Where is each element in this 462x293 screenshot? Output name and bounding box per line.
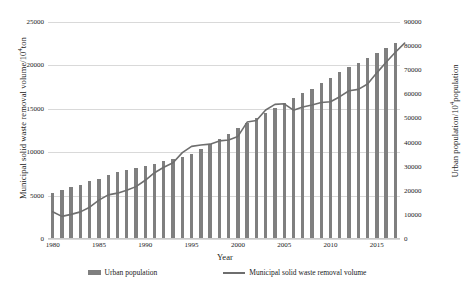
line-path bbox=[53, 43, 405, 216]
plot-area bbox=[48, 22, 400, 239]
y-axis-left-tick-label: 0 bbox=[41, 235, 45, 243]
x-axis-tick-label: 2010 bbox=[324, 241, 338, 249]
y-axis-right-tick-label: 60000 bbox=[404, 90, 422, 98]
y-axis-left-tick-label: 25000 bbox=[27, 18, 45, 26]
y-axis-left-tick-label: 15000 bbox=[27, 105, 45, 113]
y-axis-right-tick-label: 40000 bbox=[404, 139, 422, 147]
legend-line-swatch-icon bbox=[223, 272, 245, 274]
y-axis-right-title: Urban population/104population bbox=[448, 8, 462, 234]
line-series-waste-removal-volume bbox=[48, 22, 400, 239]
x-axis-tick-label: 2005 bbox=[277, 241, 291, 249]
chart-legend: Urban population Municipal solid waste r… bbox=[0, 268, 454, 277]
legend-item-urban-population: Urban population bbox=[88, 268, 158, 277]
y-axis-right-tick-label: 50000 bbox=[404, 114, 422, 122]
x-axis-baseline bbox=[48, 238, 400, 239]
gridline bbox=[48, 239, 400, 240]
legend-label-waste-removal-volume: Municipal solid waste removal volume bbox=[249, 268, 366, 277]
y-axis-right-tick-label: 90000 bbox=[404, 18, 422, 26]
y-axis-right-tick-label: 80000 bbox=[404, 42, 422, 50]
y-axis-right-tick-label: 30000 bbox=[404, 163, 422, 171]
y-axis-right-ticks: 0100002000030000400005000060000700008000… bbox=[404, 22, 444, 239]
x-axis-tick-label: 1985 bbox=[92, 241, 106, 249]
y-axis-left-tick-label: 20000 bbox=[27, 61, 45, 69]
legend-label-urban-population: Urban population bbox=[105, 268, 158, 277]
x-axis-title: Year bbox=[40, 252, 410, 262]
y-axis-left-tick-label: 5000 bbox=[30, 192, 44, 200]
x-axis-tick-label: 1990 bbox=[138, 241, 152, 249]
legend-item-waste-removal-volume: Municipal solid waste removal volume bbox=[223, 268, 366, 277]
legend-bar-swatch-icon bbox=[88, 270, 101, 275]
y-axis-left-ticks: 0500010000150002000025000 bbox=[0, 22, 44, 239]
x-axis-tick-label: 1995 bbox=[185, 241, 199, 249]
y-axis-right-tick-label: 0 bbox=[404, 235, 408, 243]
y-axis-right-title-prefix: Urban population/10 bbox=[450, 105, 460, 178]
x-axis-tick-label: 2015 bbox=[370, 241, 384, 249]
y-axis-right-title-exponent: 4 bbox=[448, 102, 455, 105]
y-axis-right-tick-label: 20000 bbox=[404, 187, 422, 195]
x-axis-ticks: 19801985199019952000200520102015 bbox=[48, 241, 400, 253]
x-axis-tick-label: 1980 bbox=[46, 241, 60, 249]
y-axis-right-tick-label: 10000 bbox=[404, 211, 422, 219]
y-axis-right-tick-label: 70000 bbox=[404, 66, 422, 74]
x-axis-tick-label: 2000 bbox=[231, 241, 245, 249]
y-axis-right-title-suffix: population bbox=[450, 64, 460, 101]
y-axis-left-tick-label: 10000 bbox=[27, 148, 45, 156]
